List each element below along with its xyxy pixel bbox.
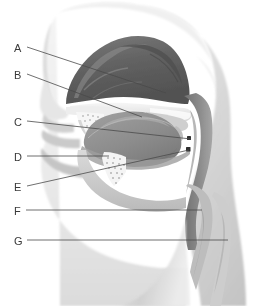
sagittal-section-illustration	[0, 0, 263, 306]
label-d: D	[14, 152, 22, 163]
label-c: C	[14, 117, 22, 128]
label-a: A	[14, 43, 21, 54]
label-g: G	[14, 236, 23, 247]
label-f: F	[14, 206, 21, 217]
label-b: B	[14, 70, 21, 81]
anatomy-figure: A B C D E F G	[0, 0, 263, 306]
label-e: E	[14, 182, 21, 193]
